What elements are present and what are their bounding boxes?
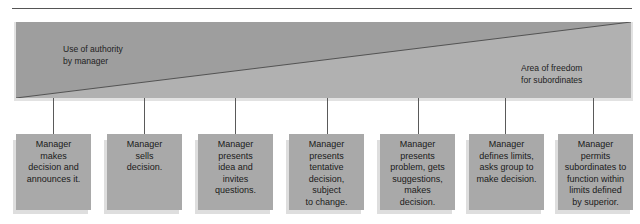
behavior-3-line-4: invites (198, 174, 273, 186)
behavior-7-line-3: subordinates to (558, 162, 633, 174)
behavior-5-line-4: suggestions, (380, 174, 455, 186)
manager-authority-label: Use of authority by manager (63, 43, 123, 67)
subordinate-freedom-label: Area of freedom for subordinates (521, 62, 582, 86)
connector-3 (235, 98, 236, 135)
behavior-box-5: Manager presents problem, gets suggestio… (380, 134, 455, 210)
behavior-3-line-2: presents (198, 151, 273, 163)
behavior-5-line-3: problem, gets (380, 162, 455, 174)
behavior-4-line-4: decision, (289, 174, 364, 186)
behavior-1-line-2: makes (16, 151, 91, 163)
subordinate-freedom-label-line-2: for subordinates (521, 74, 582, 85)
manager-authority-label-line-1: Use of authority (63, 43, 123, 54)
behavior-6-line-4: make decision. (469, 174, 544, 186)
behavior-1-line-3: decision and (16, 162, 91, 174)
behavior-7-line-5: limits defined (558, 185, 633, 197)
behavior-6-line-1: Manager (469, 139, 544, 151)
behavior-7-line-2: permits (558, 151, 633, 163)
behavior-5-line-5: makes (380, 185, 455, 197)
behavior-4-line-3: tentative (289, 162, 364, 174)
behavior-box-1: Manager makes decision and announces it. (16, 134, 91, 210)
behavior-1-line-4: announces it. (16, 174, 91, 186)
behavior-6-line-2: defines limits, (469, 151, 544, 163)
behavior-5-line-1: Manager (380, 139, 455, 151)
subordinate-freedom-label-line-1: Area of freedom (521, 62, 582, 73)
behavior-2-line-2: sells (107, 151, 182, 163)
behavior-7-line-6: by superior. (558, 197, 633, 209)
behavior-5-line-2: presents (380, 151, 455, 163)
behavior-2-line-3: decision. (107, 162, 182, 174)
behavior-2-line-1: Manager (107, 139, 182, 151)
connector-5 (418, 98, 419, 135)
behavior-4-line-2: presents (289, 151, 364, 163)
behavior-box-7: Manager permits subordinates to function… (558, 134, 633, 210)
behavior-box-6: Manager defines limits, asks group to ma… (469, 134, 544, 210)
behavior-6-line-3: asks group to (469, 162, 544, 174)
behavior-box-3: Manager presents idea and invites questi… (198, 134, 273, 210)
connector-1 (53, 98, 54, 135)
connector-4 (327, 98, 328, 135)
behavior-7-line-4: function within (558, 174, 633, 186)
connector-7 (593, 98, 594, 135)
behavior-5-line-6: decision. (380, 197, 455, 209)
connector-2 (144, 98, 145, 135)
behavior-4-line-1: Manager (289, 139, 364, 151)
behavior-4-line-5: subject (289, 185, 364, 197)
behavior-box-4: Manager presents tentative decision, sub… (289, 134, 364, 210)
behavior-3-line-5: questions. (198, 185, 273, 197)
behavior-3-line-3: idea and (198, 162, 273, 174)
behavior-4-line-6: to change. (289, 197, 364, 209)
behavior-1-line-1: Manager (16, 139, 91, 151)
connector-6 (505, 98, 506, 135)
behavior-box-2: Manager sells decision. (107, 134, 182, 210)
manager-authority-label-line-2: by manager (63, 55, 108, 66)
behavior-7-line-1: Manager (558, 139, 633, 151)
top-rule (12, 8, 632, 9)
behavior-3-line-1: Manager (198, 139, 273, 151)
